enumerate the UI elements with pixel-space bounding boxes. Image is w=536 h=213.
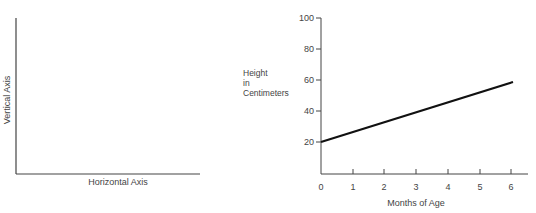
vertical-axis-label: Vertical Axis — [2, 75, 12, 124]
y-tick-label: 20 — [304, 137, 314, 147]
horizontal-axis-label: Horizontal Axis — [88, 177, 148, 187]
x-ticks: 0 1 2 3 4 5 6 — [318, 169, 513, 192]
y-axis-label-line-3: Centimeters — [243, 88, 289, 98]
x-axis-label: Months of Age — [387, 198, 445, 208]
y-axis-label-line-2: in — [243, 78, 250, 88]
x-tick-label: 4 — [445, 182, 450, 192]
y-ticks: 100 80 60 40 20 — [299, 13, 321, 147]
x-tick-label: 0 — [318, 182, 323, 192]
x-tick-label: 3 — [413, 182, 418, 192]
x-tick-label: 5 — [477, 182, 482, 192]
x-tick-label: 6 — [508, 182, 513, 192]
y-tick-label: 60 — [304, 75, 314, 85]
generic-axes-diagram: Vertical Axis Horizontal Axis — [2, 18, 200, 187]
x-tick-label: 2 — [381, 182, 386, 192]
figure: Vertical Axis Horizontal Axis 100 80 60 … — [0, 0, 536, 213]
y-tick-label: 40 — [304, 106, 314, 116]
y-axis-label-line-1: Height — [243, 68, 268, 78]
x-tick-label: 1 — [350, 182, 355, 192]
height-data-line — [321, 82, 513, 142]
height-chart: 100 80 60 40 20 0 1 2 3 4 5 6 Height in … — [243, 13, 528, 208]
y-tick-label: 80 — [304, 44, 314, 54]
y-tick-label: 100 — [299, 13, 314, 23]
